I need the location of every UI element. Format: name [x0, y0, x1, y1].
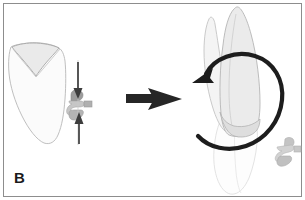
bracket-right-tab-2 — [294, 146, 301, 152]
rotated-tooth-main-body — [220, 7, 260, 137]
figure-panel-b: B — [0, 0, 305, 200]
rotation-arrow-head — [192, 68, 214, 83]
panel-label: B — [14, 170, 25, 185]
attachment-bracket-right — [275, 138, 301, 167]
bracket-right-tab — [84, 101, 92, 107]
transition-arrow — [126, 88, 182, 110]
transition-arrow-shaft — [126, 94, 154, 103]
rotated-tooth-group — [204, 7, 260, 137]
left-tooth-group — [9, 43, 66, 144]
figure-illustration — [0, 0, 305, 200]
bracket-right-lower — [277, 156, 292, 166]
